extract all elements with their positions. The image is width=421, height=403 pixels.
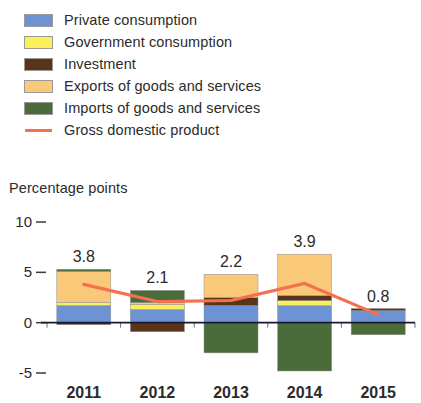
color-swatch-icon (24, 14, 53, 27)
y-axis-title: Percentage points (9, 180, 128, 196)
bar-segment (57, 271, 111, 302)
bar-segment (351, 311, 405, 323)
chart-svg: 1050-5 3.82.12.23.90.8 20112012201320142… (0, 205, 421, 403)
bar-segment (278, 323, 332, 371)
legend-item: Investment (24, 53, 416, 75)
bar-segment (351, 309, 405, 311)
line-sample-icon (24, 124, 53, 137)
x-axis-tick-label: 2015 (360, 384, 396, 401)
legend-item-label: Exports of goods and services (64, 78, 261, 94)
bar-segment (351, 323, 405, 335)
legend-item-label: Private consumption (64, 12, 197, 28)
bar-segment (204, 323, 258, 353)
bar-segment (278, 301, 332, 306)
y-axis-tick-label: -5 (19, 364, 32, 381)
x-axis-tick-label: 2012 (140, 384, 176, 401)
legend-item: Imports of goods and services (24, 97, 416, 119)
bar-segment (204, 274, 258, 297)
y-axis-tick-label: 10 (15, 213, 32, 230)
bar-value-label: 2.1 (146, 269, 168, 286)
legend-item-label: Imports of goods and services (64, 100, 260, 116)
x-axis-tick-label: 2011 (66, 384, 101, 401)
bar-segment (130, 310, 184, 323)
y-axis-ticks (36, 222, 46, 373)
bar-segment (57, 306, 111, 323)
bar-segment (278, 295, 332, 300)
bar-value-label: 0.8 (367, 288, 389, 305)
bar-segment (130, 323, 184, 332)
bar-segment (57, 269, 111, 271)
legend-item-label: Government consumption (64, 34, 232, 50)
y-axis-tick-labels: 1050-5 (15, 213, 32, 381)
legend-item-label: Investment (64, 56, 136, 72)
legend-item: Government consumption (24, 31, 416, 53)
color-swatch-icon (24, 102, 53, 115)
bar-value-label: 3.8 (73, 248, 95, 265)
color-swatch-icon (24, 36, 53, 49)
y-axis-tick-label: 5 (24, 263, 32, 280)
bar-segment (130, 305, 184, 310)
x-axis-tick-labels: 20112012201320142015 (66, 384, 396, 401)
bar-segment (278, 306, 332, 323)
bar-segment (204, 306, 258, 323)
bar-value-label: 2.2 (220, 253, 242, 270)
color-swatch-icon (24, 58, 53, 71)
legend-item: Private consumption (24, 9, 416, 31)
legend-item: Exports of goods and services (24, 75, 416, 97)
x-axis-tick-label: 2014 (287, 384, 323, 401)
y-axis-tick-label: 0 (24, 314, 32, 331)
bar-series-group (57, 254, 405, 371)
bar-value-label: 3.9 (293, 233, 315, 250)
legend-item: Gross domestic product (24, 119, 416, 141)
color-swatch-icon (24, 80, 53, 93)
chart-legend: Private consumption Government consumpti… (24, 9, 416, 141)
x-axis-tick-label: 2013 (213, 384, 249, 401)
legend-item-label: Gross domestic product (64, 122, 219, 138)
bar-segment (57, 303, 111, 306)
chart-plot-area: 1050-5 3.82.12.23.90.8 20112012201320142… (0, 205, 421, 403)
